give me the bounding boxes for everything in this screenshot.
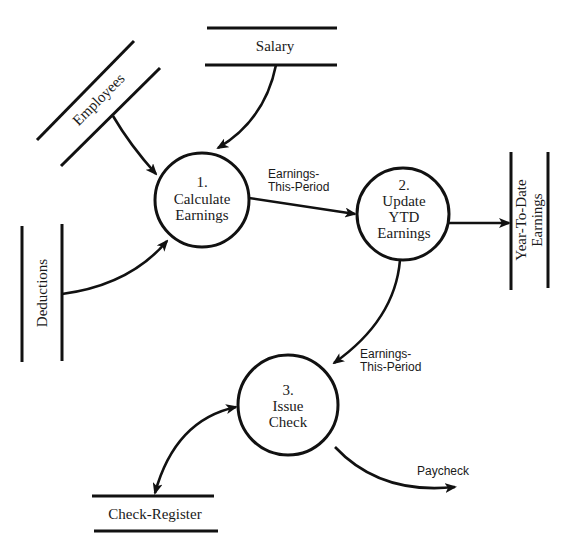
check-register-label: Check-Register xyxy=(108,506,201,522)
process-3-line2: Check xyxy=(269,414,308,430)
flow-employees-to-calculate xyxy=(113,116,156,174)
flow-label-paycheck: Paycheck xyxy=(417,464,470,478)
ytd-label-line1: Year-To-Date xyxy=(513,179,529,261)
process-issue-check[interactable]: 3. Issue Check xyxy=(238,355,338,455)
flow-label-2a: Earnings- xyxy=(360,347,411,361)
flow-calculate-to-update xyxy=(249,198,355,214)
process-2-number: 2. xyxy=(398,177,409,193)
process-3-number: 3. xyxy=(282,382,293,398)
deductions-label: Deductions xyxy=(34,259,50,327)
data-store-deductions[interactable]: Deductions xyxy=(22,224,62,362)
flow-issue-check-register xyxy=(155,407,236,493)
data-store-employees[interactable]: Employees xyxy=(37,41,160,166)
process-2-line1: Update xyxy=(382,193,426,209)
process-1-line2: Earnings xyxy=(175,207,228,223)
ytd-label-line2: Earnings xyxy=(529,193,545,246)
process-1-number: 1. xyxy=(196,174,207,190)
flow-label-2b: This-Period xyxy=(360,360,421,374)
flow-label-1b: This-Period xyxy=(268,180,329,194)
process-2-line3: Earnings xyxy=(377,225,430,241)
process-2-line2: YTD xyxy=(389,209,420,225)
flow-deductions-to-calculate xyxy=(62,241,167,294)
process-3-line1: Issue xyxy=(273,398,304,414)
flow-salary-to-calculate xyxy=(218,65,276,148)
process-1-line1: Calculate xyxy=(174,191,231,207)
process-update-ytd-earnings[interactable]: 2. Update YTD Earnings xyxy=(357,168,449,260)
data-flow-diagram: Salary Employees Deductions Year-To-Date… xyxy=(0,0,571,545)
data-store-salary[interactable]: Salary xyxy=(205,28,337,65)
data-store-ytd-earnings[interactable]: Year-To-Date Earnings xyxy=(511,152,548,290)
salary-label: Salary xyxy=(256,38,295,54)
data-store-check-register[interactable]: Check-Register xyxy=(92,496,218,531)
flow-label-1a: Earnings- xyxy=(268,167,319,181)
process-calculate-earnings[interactable]: 1. Calculate Earnings xyxy=(155,153,249,247)
